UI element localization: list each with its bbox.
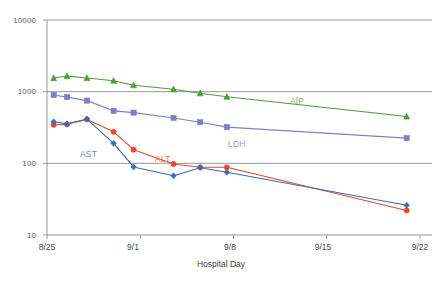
data-point xyxy=(111,129,116,134)
x-tick-label-9-15: 9/15 xyxy=(303,242,343,252)
data-point xyxy=(64,94,69,99)
data-point xyxy=(84,98,89,103)
data-point xyxy=(171,161,176,166)
series-line xyxy=(54,95,407,138)
series-label-alt: ALT xyxy=(155,154,171,164)
data-point xyxy=(131,147,136,152)
data-point xyxy=(171,115,176,120)
y-tick-label-1000: 1000 xyxy=(0,87,36,96)
x-tick-label-9-8: 9/8 xyxy=(210,242,250,252)
data-point xyxy=(131,110,136,115)
series-line xyxy=(54,76,407,116)
series-alp xyxy=(51,73,410,119)
chart-plot-area xyxy=(0,0,442,281)
y-tick-label-10: 10 xyxy=(0,231,36,240)
data-point xyxy=(224,169,230,175)
x-tick-label-8-25: 8/25 xyxy=(27,242,67,252)
series-ast xyxy=(51,116,410,208)
data-point xyxy=(224,125,229,130)
x-axis-title: Hospital Day xyxy=(0,259,442,269)
x-tick-label-9-1: 9/1 xyxy=(113,242,153,252)
series-line xyxy=(54,119,407,210)
x-tick-label-9-22: 9/22 xyxy=(400,242,440,252)
y-tick-marks xyxy=(43,20,47,235)
chart-container: 10000 1000 100 10 8/25 9/1 9/8 9/15 9/22… xyxy=(0,0,442,281)
series-label-ldh: LDH xyxy=(228,139,246,149)
data-point xyxy=(404,202,410,208)
data-point xyxy=(111,108,116,113)
series-label-ast: AST xyxy=(80,149,97,159)
data-point xyxy=(198,120,203,125)
series-alt xyxy=(51,117,409,213)
data-point xyxy=(171,173,177,179)
x-tick-marks xyxy=(47,235,420,239)
y-tick-label-10000: 10000 xyxy=(0,16,36,25)
series-line xyxy=(54,119,407,205)
data-point xyxy=(404,135,409,140)
y-tick-label-100: 100 xyxy=(0,159,36,168)
series-label-alp: AlP xyxy=(290,96,304,106)
data-point xyxy=(51,92,56,97)
